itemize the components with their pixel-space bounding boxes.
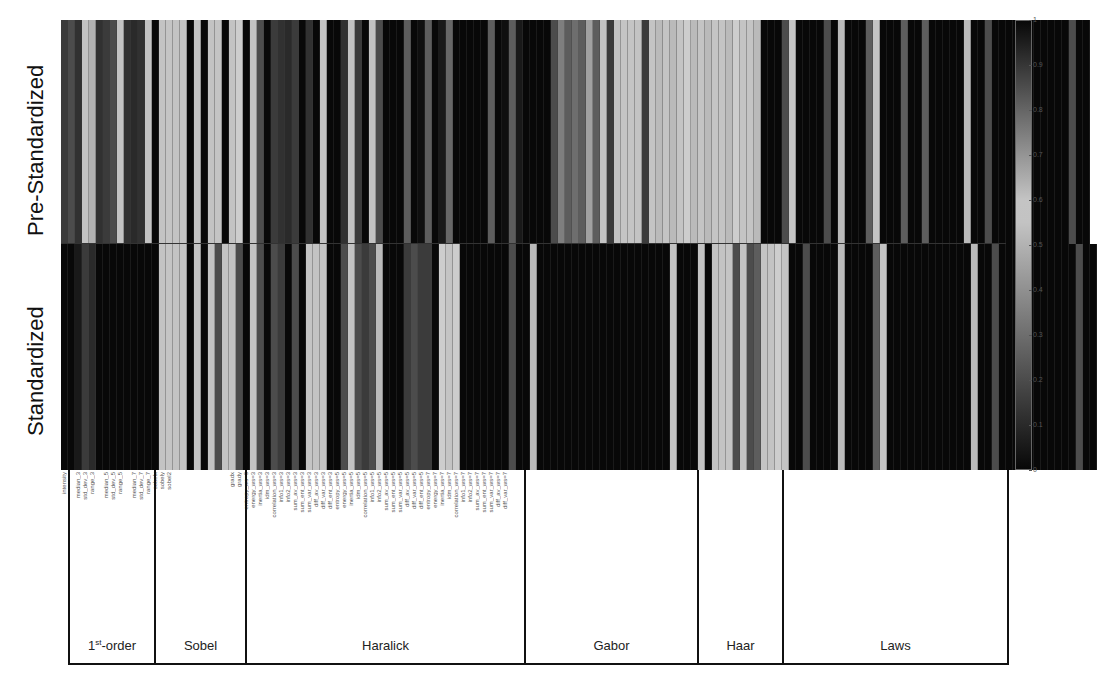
heatmap-cell xyxy=(719,20,726,244)
heatmap-cell xyxy=(327,20,334,244)
heatmap-cell xyxy=(264,244,271,470)
heatmap-cell xyxy=(439,20,446,244)
heatmap-cell xyxy=(901,244,908,470)
heatmap-cell xyxy=(369,20,376,244)
heatmap-cell xyxy=(600,244,607,470)
heatmap-cell xyxy=(488,244,495,470)
heatmap-cell xyxy=(201,20,208,244)
heatmap-cell xyxy=(376,20,383,244)
heatmap-cell xyxy=(873,244,880,470)
heatmap-cell xyxy=(649,244,656,470)
heatmap-cell xyxy=(159,244,166,470)
heatmap-cell xyxy=(838,244,845,470)
heatmap-cell xyxy=(761,244,768,470)
heatmap-cell xyxy=(1006,20,1013,244)
heatmap-cell xyxy=(278,244,285,470)
heatmap-cell xyxy=(908,244,915,470)
heatmap-cell xyxy=(544,244,551,470)
heatmap-cell xyxy=(873,20,880,244)
heatmap-cell xyxy=(215,20,222,244)
heatmap-cell xyxy=(551,244,558,470)
heatmap-cell xyxy=(565,20,572,244)
heatmap-cell xyxy=(516,244,523,470)
heatmap-cell xyxy=(292,20,299,244)
heatmap-cell xyxy=(68,20,75,244)
heatmap-cell xyxy=(803,244,810,470)
heatmap-cell xyxy=(432,20,439,244)
heatmap-cell xyxy=(796,20,803,244)
heatmap-cell xyxy=(110,244,117,470)
heatmap-cell xyxy=(621,244,628,470)
heatmap-cell xyxy=(110,20,117,244)
heatmap-cell xyxy=(705,20,712,244)
heatmap-cell xyxy=(880,20,887,244)
heatmap-cell xyxy=(1055,244,1062,470)
heatmap-cell xyxy=(761,20,768,244)
heatmap-cell xyxy=(810,20,817,244)
heatmap-cell xyxy=(236,244,243,470)
heatmap-cell xyxy=(922,244,929,470)
group-bracket-1st-order: 1st-order xyxy=(68,470,154,665)
heatmap-cell xyxy=(509,20,516,244)
heatmap-cell xyxy=(481,244,488,470)
heatmap-cell xyxy=(257,20,264,244)
heatmap-cell xyxy=(838,20,845,244)
heatmap-cell xyxy=(628,244,635,470)
heatmap-cell xyxy=(271,20,278,244)
heatmap-cell xyxy=(845,20,852,244)
heatmap-cell xyxy=(313,20,320,244)
heatmap-cell xyxy=(285,20,292,244)
heatmap-cell xyxy=(985,20,992,244)
heatmap-cell xyxy=(299,20,306,244)
heatmap-cell xyxy=(194,20,201,244)
heatmap-cell xyxy=(642,20,649,244)
heatmap-cell xyxy=(775,244,782,470)
heatmap-cell xyxy=(271,244,278,470)
heatmap-cell xyxy=(663,20,670,244)
heatmap-cell xyxy=(859,20,866,244)
heatmap-cell xyxy=(754,20,761,244)
heatmap-cell xyxy=(250,244,257,470)
group-label: Haar xyxy=(699,638,782,653)
heatmap-cell xyxy=(558,244,565,470)
heatmap-cell xyxy=(446,244,453,470)
heatmap-cell xyxy=(747,20,754,244)
heatmap-cell xyxy=(362,244,369,470)
heatmap-cell xyxy=(299,244,306,470)
heatmap-cell xyxy=(999,244,1006,470)
heatmap-cell xyxy=(537,244,544,470)
heatmap-cell xyxy=(824,244,831,470)
heatmap-cell xyxy=(75,244,82,470)
heatmap-cell xyxy=(649,20,656,244)
heatmap-cell xyxy=(971,244,978,470)
row-label-standardized: Standardized xyxy=(23,306,49,436)
heatmap-cell xyxy=(474,20,481,244)
colorbar-tick-label: 0.7 xyxy=(1033,151,1043,158)
group-label: Gabor xyxy=(526,638,697,653)
heatmap-cell xyxy=(607,20,614,244)
heatmap-cell xyxy=(166,20,173,244)
heatmap-cell xyxy=(957,244,964,470)
heatmap-cell xyxy=(635,20,642,244)
heatmap-cell xyxy=(495,20,502,244)
heatmap-cell xyxy=(614,244,621,470)
heatmap-cell xyxy=(341,20,348,244)
heatmap-cell xyxy=(222,244,229,470)
heatmap-cell xyxy=(852,244,859,470)
heatmap-cell xyxy=(411,244,418,470)
group-bracket-haralick: Haralick xyxy=(245,470,524,665)
heatmap-cell xyxy=(656,20,663,244)
heatmap-cell xyxy=(684,244,691,470)
heatmap-cell xyxy=(894,244,901,470)
heatmap-cell xyxy=(831,20,838,244)
heatmap-cell xyxy=(397,20,404,244)
heatmap-cell xyxy=(89,244,96,470)
heatmap-cell xyxy=(495,244,502,470)
heatmap-cell xyxy=(173,20,180,244)
heatmap-cell xyxy=(992,244,999,470)
heatmap-cell xyxy=(355,244,362,470)
heatmap-cell xyxy=(572,244,579,470)
heatmap-cell xyxy=(278,20,285,244)
heatmap-cell xyxy=(831,244,838,470)
heatmap-cell xyxy=(124,20,131,244)
